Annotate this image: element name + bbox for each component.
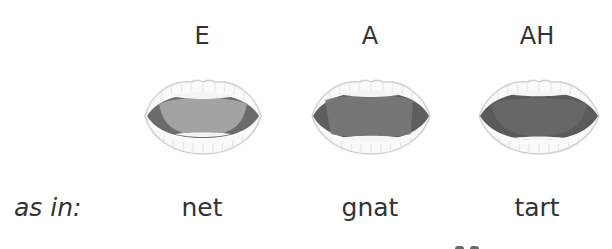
example-word-tart: tart [477,193,597,222]
example-word-gnat: gnat [310,193,430,222]
mouth-illustration-ah [477,74,601,156]
vowel-label-e: E [142,22,262,50]
open-mouth-icon [309,74,433,156]
as-in-label: as in: [14,193,82,222]
cutoff-illustration-fragment [453,245,481,249]
example-word-net: net [142,193,262,222]
vowel-label-ah: AH [477,22,597,50]
mouth-illustration-a [309,74,433,156]
open-mouth-icon [477,74,601,156]
vowel-label-a: A [310,22,430,50]
mouth-illustration-e [141,74,265,156]
open-mouth-icon [141,74,265,156]
